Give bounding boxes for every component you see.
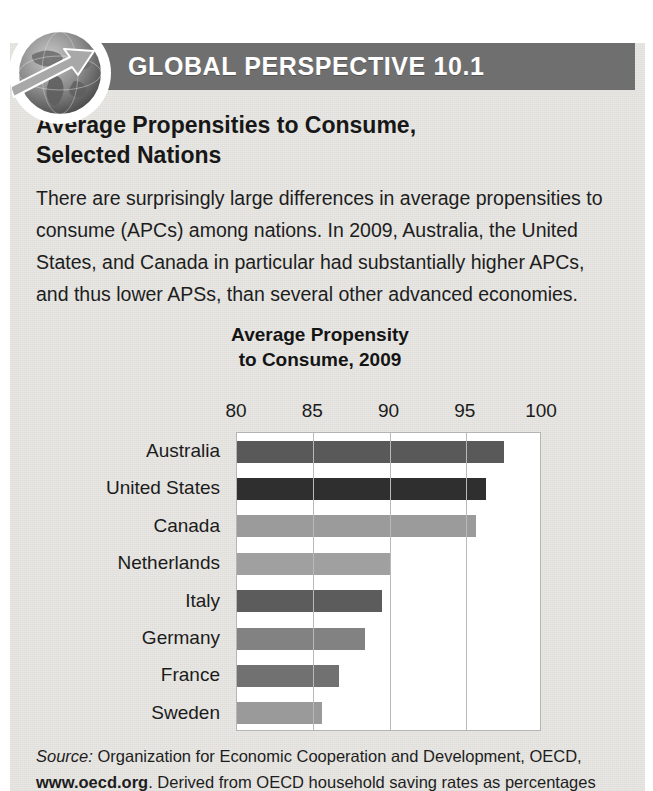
category-label-australia: Australia bbox=[146, 432, 220, 469]
category-label-italy: Italy bbox=[185, 582, 220, 619]
category-label-sweden: Sweden bbox=[151, 694, 220, 731]
bar-united-states bbox=[237, 478, 486, 500]
globe-arrow-icon bbox=[12, 25, 108, 121]
bar-australia bbox=[237, 441, 504, 463]
chart-plot-area bbox=[236, 432, 541, 731]
source-note: Source: Organization for Economic Cooper… bbox=[36, 743, 636, 791]
chart-bars bbox=[237, 433, 540, 730]
category-label-germany: Germany bbox=[142, 619, 220, 656]
bar-italy bbox=[237, 590, 382, 612]
x-axis-tick-labels: 80859095100 bbox=[0, 400, 653, 426]
bar-sweden bbox=[237, 702, 322, 724]
feature-body-text: There are surprisingly large differences… bbox=[36, 182, 616, 310]
x-tick-label-90: 90 bbox=[378, 400, 399, 422]
gridline-85 bbox=[313, 433, 314, 730]
category-label-united-states: United States bbox=[106, 469, 220, 506]
x-tick-label-100: 100 bbox=[525, 400, 557, 422]
bar-row bbox=[237, 545, 540, 582]
chart-title-line-2: to Consume, 2009 bbox=[0, 347, 640, 372]
category-label-netherlands: Netherlands bbox=[118, 544, 220, 581]
bar-france bbox=[237, 665, 339, 687]
source-text-2: . Derived from OECD household saving rat… bbox=[148, 773, 596, 791]
bar-row bbox=[237, 583, 540, 620]
gridline-90 bbox=[390, 433, 391, 730]
x-tick-label-85: 85 bbox=[302, 400, 323, 422]
x-tick-label-80: 80 bbox=[225, 400, 246, 422]
page-root: GLOBAL PERSPECTIVE 10.1 bbox=[0, 0, 653, 791]
bar-chart: Average Propensity to Consume, 2009 8085… bbox=[0, 322, 653, 742]
category-label-france: France bbox=[161, 656, 220, 693]
bar-row bbox=[237, 508, 540, 545]
bar-row bbox=[237, 695, 540, 732]
source-label: Source: bbox=[36, 747, 93, 765]
chart-title: Average Propensity to Consume, 2009 bbox=[0, 322, 640, 372]
headline-line-2: Selected Nations bbox=[36, 140, 596, 170]
bar-row bbox=[237, 657, 540, 694]
y-axis-category-labels: AustraliaUnited StatesCanadaNetherlandsI… bbox=[0, 432, 228, 731]
source-url: www.oecd.org bbox=[36, 773, 148, 791]
gridline-95 bbox=[466, 433, 467, 730]
x-tick-label-95: 95 bbox=[454, 400, 475, 422]
bar-germany bbox=[237, 628, 365, 650]
feature-header-band: GLOBAL PERSPECTIVE 10.1 bbox=[60, 43, 635, 90]
bar-row bbox=[237, 470, 540, 507]
feature-header-title: GLOBAL PERSPECTIVE 10.1 bbox=[128, 52, 485, 81]
category-label-canada: Canada bbox=[153, 507, 220, 544]
bar-row bbox=[237, 620, 540, 657]
source-text-1: Organization for Economic Cooperation an… bbox=[93, 747, 582, 765]
feature-headline: Average Propensities to Consume, Selecte… bbox=[36, 110, 596, 170]
bar-row bbox=[237, 433, 540, 470]
chart-title-line-1: Average Propensity bbox=[0, 322, 640, 347]
bar-canada bbox=[237, 515, 476, 537]
